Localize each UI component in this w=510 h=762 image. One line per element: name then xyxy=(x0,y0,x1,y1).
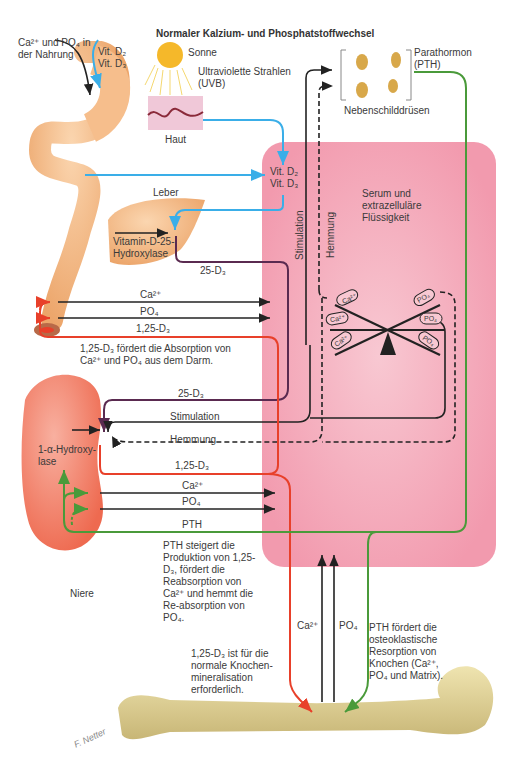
parathyroid-glands-illustration xyxy=(341,50,411,100)
label-serum: Serum und extrazelluläre Flüssigkeit xyxy=(362,188,452,224)
label-d25-liver: 25-D₃ xyxy=(200,265,226,277)
label-kidney-d125: 1,25-D₃ xyxy=(175,460,209,472)
label-sonne: Sonne xyxy=(188,47,217,59)
diagram-title: Normaler Kalzium- und Phosphatstoffwechs… xyxy=(156,28,374,40)
d25-pathway xyxy=(104,236,288,432)
sun-icon xyxy=(145,42,192,95)
label-parathormon: Parathormon (PTH) xyxy=(414,47,484,71)
label-hydroxylase-1a: 1-α-Hydroxy-lase xyxy=(38,444,98,468)
balance-po4-2: PO₄ xyxy=(424,313,437,325)
label-gut-note: 1,25-D₃ fördert die Absorption von Ca²⁺ … xyxy=(80,343,245,367)
label-haut: Haut xyxy=(165,134,186,146)
label-nahrung: Ca²⁺ und PO₄ in der Nahrung xyxy=(18,37,98,61)
label-niere: Niere xyxy=(70,588,94,600)
label-bone-note-left: 1,25-D₃ ist für die normale Knochen-mine… xyxy=(191,648,281,696)
label-stimulation-vertical: Stimulation xyxy=(294,211,306,260)
label-vit-d3-serum: Vit. D₃ xyxy=(270,178,298,190)
label-leber: Leber xyxy=(153,187,179,199)
bone-resorption-arrows xyxy=(322,555,334,702)
label-hydroxylase-25: Vitamin-D-25-Hydroxylase xyxy=(113,236,183,260)
label-vit-d2-top: Vit. D₂ xyxy=(98,46,126,58)
label-kidney-d25: 25-D₃ xyxy=(178,388,204,400)
label-hemmung-vertical: Hemmung xyxy=(325,212,337,258)
gut-absorption-arrows xyxy=(58,302,270,318)
label-kidney-stimulation: Stimulation xyxy=(170,411,219,423)
label-bone-note-right: PTH fördert die osteoklastische Resorpti… xyxy=(369,622,454,682)
label-gut-ca: Ca²⁺ xyxy=(140,289,161,301)
label-nebenschilddruesen: Nebenschilddrüsen xyxy=(344,105,430,117)
label-vit-d2-serum: Vit. D₂ xyxy=(270,166,298,178)
label-uv: Ultraviolette Strahlen (UVB) xyxy=(198,66,293,90)
gi-tract-illustration xyxy=(34,52,119,337)
label-kidney-ca: Ca²⁺ xyxy=(182,480,203,492)
label-vit-d3-top: Vit. D₃ xyxy=(98,58,126,70)
label-gut-po4: PO₄ xyxy=(140,306,159,318)
label-bone-po4: PO₄ xyxy=(339,620,358,632)
label-kidney-hemmung: Hemmung xyxy=(170,434,216,446)
label-kidney-note: PTH steigert die Produktion von 1,25-D₃,… xyxy=(163,540,263,624)
skin-illustration xyxy=(148,96,203,130)
label-gut-d125: 1,25-D₃ xyxy=(136,323,170,335)
label-bone-ca: Ca²⁺ xyxy=(297,620,318,632)
label-kidney-pth: PTH xyxy=(182,519,202,531)
label-kidney-po4: PO₄ xyxy=(182,496,201,508)
